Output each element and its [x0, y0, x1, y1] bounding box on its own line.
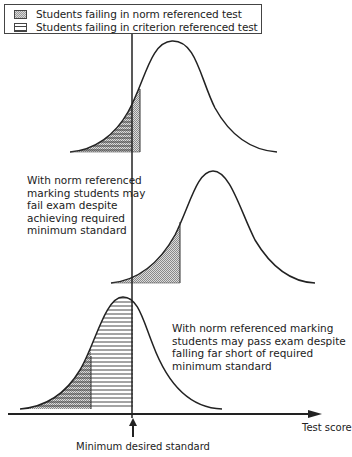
criterion-fail-region-bottom [15, 295, 133, 415]
legend: Students failing in norm referenced test… [4, 4, 262, 34]
stipple-icon [14, 10, 27, 19]
axis-arrowhead-icon [308, 410, 322, 418]
legend-item-criterion: Students failing in criterion referenced… [14, 21, 258, 33]
arrow-up-icon [129, 418, 137, 426]
minimum-standard-label: Minimum desired standard [76, 441, 210, 452]
legend-item-norm: Students failing in norm referenced test [14, 8, 242, 20]
bottom-distribution [15, 295, 133, 415]
top-distribution [60, 40, 140, 155]
legend-label-norm: Students failing in norm referenced test [36, 8, 242, 20]
annotation-middle: With norm referenced marking students ma… [27, 174, 147, 237]
annotation-bottom: With norm referenced marking students ma… [172, 322, 352, 372]
criterion-fail-region-top [60, 40, 132, 155]
horizontal-hatch-icon [14, 23, 27, 32]
x-axis-label: Test score [302, 422, 352, 433]
legend-label-criterion: Students failing in criterion referenced… [36, 21, 258, 33]
